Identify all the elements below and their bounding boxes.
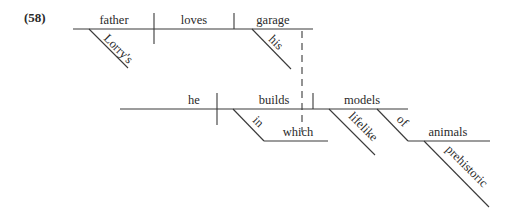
animals-modifier: prehistoric — [443, 142, 491, 190]
object-modifier: his — [266, 32, 286, 52]
object-modifier-lifelike: lifelike — [346, 109, 381, 144]
object-prep-object: animals — [429, 125, 468, 139]
relative-object: models — [344, 93, 380, 107]
main-object: garage — [256, 13, 290, 27]
example-number: (58) — [24, 10, 46, 25]
main-verb: loves — [181, 13, 208, 27]
object-modifier-line — [252, 29, 291, 69]
prep-object: which — [283, 125, 314, 139]
sentence-diagram: (58) father loves garage Lorry's his he … — [0, 0, 512, 214]
preposition: in — [250, 113, 267, 130]
relative-verb: builds — [259, 93, 290, 107]
main-subject: father — [99, 13, 129, 27]
relative-subject: he — [188, 93, 200, 107]
object-prep: of — [394, 112, 412, 130]
subject-modifier: Lorry's — [101, 31, 136, 66]
